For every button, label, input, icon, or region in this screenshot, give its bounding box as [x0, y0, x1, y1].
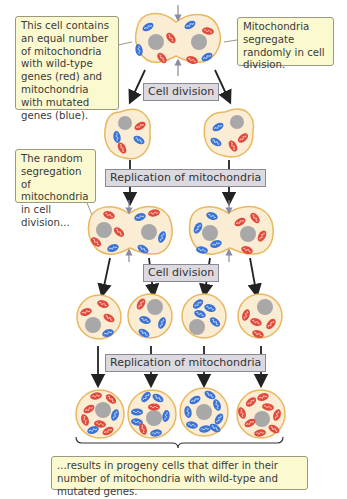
callout-initial-cell: This cell contains an equal number of mi… [15, 16, 119, 110]
daughter-cell-left [105, 109, 150, 158]
replicated-cell-left [88, 207, 172, 256]
final-cell-2 [128, 390, 176, 438]
progeny-cell-1 [77, 295, 121, 339]
final-cell-4 [237, 390, 285, 438]
progeny-cell-4 [238, 294, 282, 339]
label-cell-division-1: Cell division [143, 83, 219, 101]
callout-random-segregation: Mitochondria segregate randomly in cell … [237, 17, 334, 66]
callout-progeny-result: ...results in progeny cells that differ … [51, 456, 308, 490]
grouping-brace [76, 437, 283, 448]
label-replication-2: Replication of mitochondria [105, 354, 266, 372]
callout-random-segregation-cell-division: The random segregation of mitochondria i… [15, 149, 96, 203]
daughter-cell-right [204, 109, 253, 157]
callout-pointer [118, 42, 132, 45]
progeny-cell-3 [182, 294, 226, 338]
label-cell-division-2: Cell division [143, 264, 219, 282]
callout-pointer [224, 40, 237, 42]
progeny-cell-2 [128, 294, 172, 339]
parent-cell [134, 13, 220, 65]
final-cell-1 [76, 390, 124, 438]
label-replication-1: Replication of mitochondria [105, 169, 266, 187]
final-cell-3 [180, 388, 228, 436]
replicated-cell-right [190, 207, 274, 256]
